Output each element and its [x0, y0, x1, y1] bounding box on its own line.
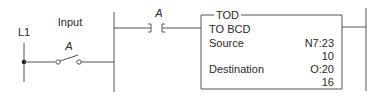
instruction-mnemonic: TOD: [216, 9, 239, 21]
contact-terminal-icon: [56, 60, 60, 64]
destination-value: 16: [322, 76, 334, 88]
input-label: Input: [58, 16, 82, 28]
source-address: N7:23: [305, 37, 334, 49]
rung-contact-label: A: [154, 7, 162, 19]
input-circuit: L1 Input A: [18, 16, 114, 82]
switch-arm-icon: [60, 55, 78, 61]
input-contact-label: A: [64, 40, 72, 52]
contact-terminal-icon: [77, 60, 81, 64]
source-label: Source: [209, 37, 244, 49]
destination-address: O:20: [310, 63, 334, 75]
rung: A TOD TO BCD Source N7:23 10 Destination…: [114, 7, 366, 89]
instruction-title: TO BCD: [209, 23, 250, 35]
l1-label: L1: [18, 26, 30, 38]
ladder-diagram: L1 Input A A TOD TO BCD Source N7:23 10 …: [0, 0, 386, 98]
source-value: 10: [322, 50, 334, 62]
destination-label: Destination: [209, 63, 264, 75]
tod-instruction-block: TOD TO BCD Source N7:23 10 Destination O…: [201, 9, 342, 89]
